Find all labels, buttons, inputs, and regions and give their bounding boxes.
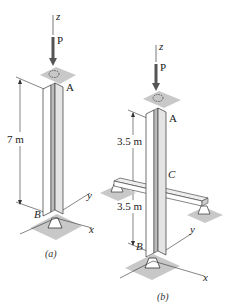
top-plate-b	[143, 91, 181, 108]
length-label-a: 7 m	[7, 133, 24, 145]
y-axis-b	[166, 234, 191, 250]
point-b-label-a: B	[34, 208, 41, 220]
column-flange-left-b	[146, 110, 154, 257]
caption-a: (a)	[45, 248, 57, 260]
column-flange-right-a	[55, 83, 63, 214]
column-flange-left-a	[43, 85, 51, 216]
x-label-a: x	[88, 223, 94, 235]
point-a-label-a: A	[66, 81, 74, 93]
load-label-b: P	[160, 61, 166, 73]
load-arrow-head-a	[49, 58, 57, 66]
dim-ext-top-b	[128, 110, 147, 118]
dim-arrow-top-a	[18, 79, 22, 84]
y-axis-a	[63, 193, 90, 210]
y-label-b: y	[189, 223, 195, 235]
column-diagram: z P A 7 m B y x (a)	[0, 0, 227, 306]
dim-arrow-bot-a	[18, 200, 22, 205]
load-arrow-shaft-b	[155, 64, 158, 84]
y-label-a: y	[86, 189, 92, 201]
z-label-b: z	[158, 40, 164, 52]
column-flange-right-b	[158, 108, 166, 255]
figure-b	[100, 45, 223, 280]
right-pin-support-b	[198, 206, 210, 214]
column-web-a	[51, 83, 55, 212]
point-a-label-b: A	[169, 112, 177, 124]
column-web-b	[154, 108, 158, 253]
upper-length-label-b: 3.5 m	[117, 135, 143, 147]
z-label-a: z	[55, 10, 61, 22]
load-label-a: P	[57, 34, 63, 46]
load-arrow-head-b	[152, 83, 160, 91]
x-label-b: x	[202, 271, 208, 283]
point-c-label-b: C	[168, 168, 176, 180]
point-b-label-b: B	[136, 240, 143, 252]
load-arrow-shaft-a	[52, 37, 55, 59]
lower-length-label-b: 3.5 m	[117, 200, 143, 212]
figure-a	[6, 15, 92, 240]
caption-b: (b)	[157, 291, 169, 303]
